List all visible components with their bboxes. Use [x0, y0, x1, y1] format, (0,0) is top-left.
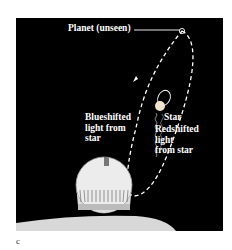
panel-label: c	[16, 236, 20, 246]
blueshifted-label: Blueshifted light from star	[85, 112, 131, 144]
planet-label: Planet (unseen)	[68, 23, 131, 34]
observatory-dome	[76, 157, 132, 213]
planet-orbit	[127, 31, 193, 196]
ground	[16, 216, 176, 231]
orbit-arrow-icon	[133, 76, 138, 82]
diagram-panel: Planet (unseen) Star Blueshifted light f…	[16, 18, 223, 231]
star-icon	[155, 101, 165, 111]
redshifted-label: Redshifted light from star	[155, 124, 199, 156]
star-label: Star	[164, 112, 181, 123]
